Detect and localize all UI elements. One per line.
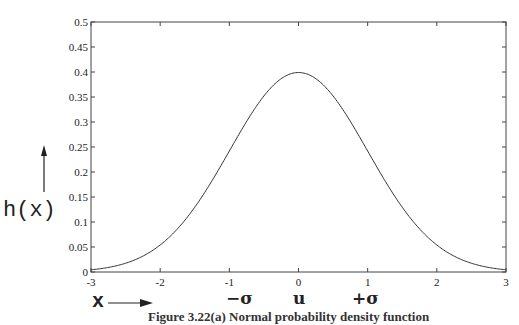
x-axis-ticks: -3-2-10123 [86,22,509,288]
x-tick-label: -1 [225,276,234,288]
y-axis-ticks: 00.050.10.150.20.250.30.350.40.450.5 [69,16,506,278]
plus-sigma-label: +σ [352,288,379,308]
y-tick-label: 0.45 [69,41,89,53]
y-tick-label: 0.25 [69,141,89,153]
right-arrow-icon [140,299,153,307]
y-tick-label: 0.4 [74,66,88,78]
figure-caption: Figure 3.22(a) Normal probability densit… [148,309,429,325]
x-tick-label: 3 [503,276,509,288]
x-tick-label: -3 [86,276,96,288]
minus-sigma-label: −σ [226,288,253,308]
y-tick-label: 0.3 [74,116,88,128]
y-axis-label: h(x) [3,198,56,223]
x-tick-label: 1 [365,276,371,288]
y-tick-label: 0.05 [69,241,89,253]
x-tick-label: 0 [296,276,302,288]
mean-label: u [293,288,305,308]
y-tick-label: 0.2 [74,166,88,178]
x-tick-label: 2 [434,276,440,288]
density-curve [91,73,506,270]
plot-frame [91,22,506,272]
up-arrow-icon [41,145,47,156]
y-tick-label: 0.5 [74,16,88,28]
y-tick-label: 0.1 [74,216,88,228]
x-axis-label: x [92,290,104,313]
x-tick-label: -2 [156,276,165,288]
y-tick-label: 0.15 [69,191,89,203]
y-tick-label: 0.35 [69,91,89,103]
